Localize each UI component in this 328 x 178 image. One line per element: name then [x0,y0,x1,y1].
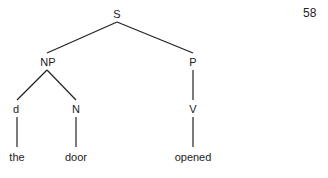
tree-node-d: d [13,103,19,115]
tree-node-door: door [65,151,87,163]
tree-edge-S-P [117,22,193,53]
page-number: 58 [303,6,316,20]
tree-edge-NP-N [47,70,76,100]
tree-node-V: V [189,103,196,115]
tree-node-P: P [189,56,196,68]
tree-edge-S-NP [47,22,117,53]
tree-edges [0,0,328,178]
tree-edge-NP-d [17,70,47,100]
tree-node-S: S [113,8,120,20]
tree-node-the: the [9,151,24,163]
tree-node-opened: opened [175,151,212,163]
parse-tree-diagram: SNPPdNVthedooropened 58 [0,0,328,178]
tree-node-NP: NP [40,56,55,68]
tree-node-N: N [72,103,80,115]
